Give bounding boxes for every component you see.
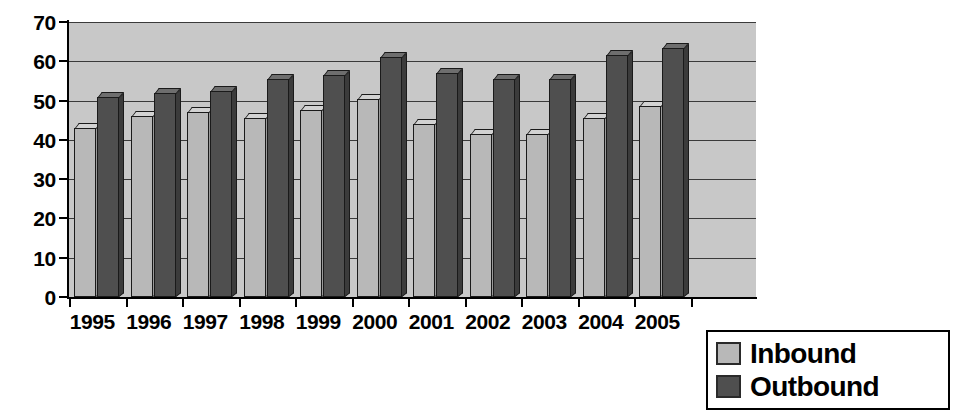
x-axis-tick: [691, 299, 693, 307]
x-axis-tick: [239, 299, 241, 307]
bar-chart: 010203040506070 199519961997199819992000…: [0, 0, 958, 416]
bar-front-face: [470, 134, 492, 297]
bar-front-face: [131, 116, 153, 297]
bar-front-face: [74, 128, 96, 297]
y-axis-label: 40: [0, 130, 56, 151]
bars-layer: [68, 22, 756, 297]
y-axis-label: 0: [0, 287, 56, 308]
bar-inbound-2003: [526, 134, 548, 297]
bar-inbound-2002: [470, 134, 492, 297]
x-axis-tick: [182, 299, 184, 307]
bar-outbound-2001: [436, 73, 458, 297]
x-axis-tick: [408, 299, 410, 307]
bar-front-face: [267, 79, 289, 297]
chart-legend: Inbound Outbound: [706, 330, 950, 410]
bar-side-face: [628, 51, 633, 297]
x-axis-tick: [578, 299, 580, 307]
bar-side-face: [289, 75, 294, 297]
x-axis-label-2004: 2004: [573, 311, 630, 332]
x-axis-label-1995: 1995: [64, 311, 121, 332]
plot-area: [68, 22, 756, 297]
x-axis-label-1997: 1997: [177, 311, 234, 332]
x-axis-label-2003: 2003: [516, 311, 573, 332]
y-axis-label: 50: [0, 91, 56, 112]
bar-outbound-2003: [549, 79, 571, 297]
legend-swatch-inbound: [716, 342, 741, 365]
bar-outbound-1998: [267, 79, 289, 297]
legend-item-outbound: Outbound: [716, 370, 940, 403]
bar-outbound-2000: [380, 57, 402, 297]
bar-outbound-2004: [606, 55, 628, 297]
x-axis-tick: [352, 299, 354, 307]
y-axis-tick: [59, 139, 68, 141]
x-axis-tick: [634, 299, 636, 307]
bar-front-face: [380, 57, 402, 297]
bar-side-face: [402, 53, 407, 297]
bar-outbound-1999: [323, 75, 345, 297]
bar-front-face: [357, 99, 379, 297]
bar-side-face: [571, 75, 576, 297]
bar-front-face: [413, 124, 435, 297]
y-axis-label: 20: [0, 208, 56, 229]
y-axis-tick: [59, 60, 68, 62]
x-axis-tick: [465, 299, 467, 307]
y-axis-tick: [59, 257, 68, 259]
bar-front-face: [323, 75, 345, 297]
bar-outbound-1996: [154, 93, 176, 297]
bar-front-face: [493, 79, 515, 297]
bar-side-face: [176, 89, 181, 297]
bar-front-face: [244, 118, 266, 297]
bar-front-face: [639, 106, 661, 297]
x-axis-label-2002: 2002: [460, 311, 517, 332]
x-axis-tick: [69, 299, 71, 307]
bar-outbound-2005: [662, 48, 684, 297]
bar-side-face: [458, 69, 463, 297]
legend-swatch-outbound: [716, 375, 741, 398]
bar-side-face: [232, 87, 237, 297]
bar-front-face: [662, 48, 684, 297]
x-axis-label-1999: 1999: [290, 311, 347, 332]
x-axis-label-1996: 1996: [121, 311, 178, 332]
x-axis-tick: [126, 299, 128, 307]
bar-inbound-2000: [357, 99, 379, 297]
y-axis-label: 60: [0, 51, 56, 72]
y-axis-label: 70: [0, 12, 56, 33]
bar-front-face: [549, 79, 571, 297]
bar-outbound-2002: [493, 79, 515, 297]
y-axis-tick: [59, 296, 68, 298]
bar-side-face: [119, 93, 124, 297]
bar-front-face: [97, 97, 119, 297]
bar-inbound-2005: [639, 106, 661, 297]
bar-inbound-2004: [583, 118, 605, 297]
y-axis-tick: [59, 100, 68, 102]
y-axis-tick: [59, 178, 68, 180]
x-axis-tick: [521, 299, 523, 307]
bar-inbound-2001: [413, 124, 435, 297]
bar-front-face: [300, 110, 322, 297]
bar-front-face: [526, 134, 548, 297]
bar-inbound-1995: [74, 128, 96, 297]
x-axis-label-1998: 1998: [234, 311, 291, 332]
y-axis-label: 10: [0, 248, 56, 269]
bar-inbound-1997: [187, 112, 209, 297]
bar-side-face: [345, 71, 350, 297]
bar-front-face: [606, 55, 628, 297]
bar-front-face: [583, 118, 605, 297]
y-axis-tick: [59, 21, 68, 23]
bar-inbound-1999: [300, 110, 322, 297]
bar-inbound-1996: [131, 116, 153, 297]
bar-front-face: [210, 91, 232, 297]
bar-front-face: [187, 112, 209, 297]
x-axis-label-2001: 2001: [403, 311, 460, 332]
legend-label-inbound: Inbound: [750, 340, 856, 368]
legend-label-outbound: Outbound: [750, 373, 879, 401]
bar-side-face: [684, 44, 689, 297]
y-axis-tick: [59, 217, 68, 219]
x-axis-line: [67, 297, 757, 299]
bar-outbound-1997: [210, 91, 232, 297]
x-axis-label-2005: 2005: [629, 311, 686, 332]
bar-inbound-1998: [244, 118, 266, 297]
x-axis-tick: [295, 299, 297, 307]
y-axis-label: 30: [0, 169, 56, 190]
bar-front-face: [436, 73, 458, 297]
